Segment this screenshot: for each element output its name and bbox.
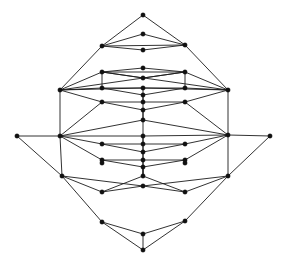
graph-edge xyxy=(60,46,102,90)
graph-node xyxy=(141,232,145,236)
graph-edge xyxy=(60,136,62,176)
graph-edge xyxy=(143,102,185,110)
graph-edge xyxy=(102,15,143,46)
graph-edge xyxy=(143,160,185,167)
graph-edge xyxy=(143,221,185,250)
graph-edge xyxy=(185,135,228,144)
graph-edge xyxy=(60,90,102,102)
graph-node xyxy=(226,133,230,137)
graph-edge xyxy=(143,135,228,136)
graph-node xyxy=(141,13,145,17)
graph-edge xyxy=(102,46,143,50)
graph-node xyxy=(141,108,145,112)
graph-node xyxy=(183,161,187,165)
graph-node xyxy=(141,32,145,36)
graph-edge xyxy=(143,120,228,135)
graph-node xyxy=(183,219,187,223)
graph-edge xyxy=(143,34,185,45)
graph-edge xyxy=(185,90,228,102)
graph-edge xyxy=(143,144,185,152)
graph-edge xyxy=(102,186,143,192)
graph-node xyxy=(141,184,145,188)
graph-edge xyxy=(102,222,143,250)
graph-edge xyxy=(185,45,228,90)
graph-edge xyxy=(143,15,185,45)
graph-node xyxy=(100,142,104,146)
graph-edge xyxy=(60,120,143,136)
graph-node xyxy=(141,48,145,52)
graph-edge xyxy=(60,102,102,136)
graph-node xyxy=(183,86,187,90)
graph-node xyxy=(226,174,230,178)
graph-node xyxy=(268,134,272,138)
graph-node xyxy=(141,142,145,146)
graph-edge xyxy=(102,68,143,72)
graph-node xyxy=(183,70,187,74)
graph-node xyxy=(100,86,104,90)
graph-node xyxy=(183,142,187,146)
graph-node xyxy=(141,174,145,178)
graph-edge xyxy=(143,68,185,72)
graph-node xyxy=(183,100,187,104)
lattice-diagram xyxy=(0,0,284,267)
figure-container xyxy=(0,0,284,267)
graph-edge xyxy=(185,176,228,221)
graph-node xyxy=(141,100,145,104)
graph-node xyxy=(58,134,62,138)
graph-edge xyxy=(185,135,228,160)
graph-edge xyxy=(102,45,185,46)
graph-node xyxy=(141,150,145,154)
graph-node xyxy=(141,86,145,90)
graph-edge xyxy=(17,136,62,176)
graph-node xyxy=(141,93,145,97)
graph-node xyxy=(100,100,104,104)
graph-edge xyxy=(102,88,143,95)
graph-edge xyxy=(185,102,228,135)
graph-node xyxy=(100,70,104,74)
graph-node xyxy=(100,161,104,165)
graph-edge xyxy=(102,102,143,110)
graph-edge xyxy=(228,136,270,176)
graph-node xyxy=(141,165,145,169)
graph-edge xyxy=(143,88,185,95)
graph-edge xyxy=(143,186,185,192)
graph-edge xyxy=(143,176,185,192)
graph-edge xyxy=(102,222,143,234)
graph-edge xyxy=(62,176,102,222)
graph-node xyxy=(100,220,104,224)
graph-edge xyxy=(228,135,270,136)
graph-node xyxy=(100,44,104,48)
graph-node xyxy=(141,158,145,162)
graph-node xyxy=(141,248,145,252)
graph-edge xyxy=(143,221,185,234)
graph-edge xyxy=(102,160,143,167)
graph-edge xyxy=(102,176,143,192)
graph-node xyxy=(226,88,230,92)
graph-edge xyxy=(102,144,143,152)
graph-node xyxy=(60,174,64,178)
graph-node xyxy=(141,76,145,80)
graph-edge xyxy=(102,34,143,46)
graph-node xyxy=(141,66,145,70)
graph-node xyxy=(15,134,19,138)
graph-node xyxy=(141,118,145,122)
node-layer xyxy=(15,13,272,252)
graph-node xyxy=(183,190,187,194)
graph-node xyxy=(141,134,145,138)
graph-node xyxy=(183,43,187,47)
graph-node xyxy=(100,190,104,194)
graph-node xyxy=(58,88,62,92)
